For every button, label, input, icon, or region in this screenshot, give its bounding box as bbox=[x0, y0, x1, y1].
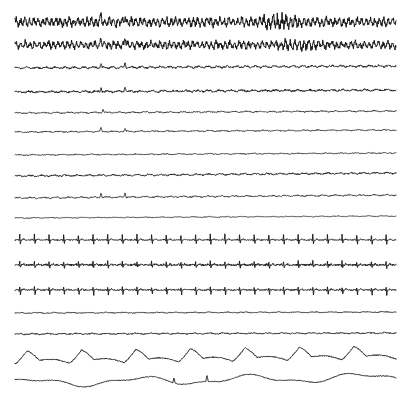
trace-spo2 bbox=[15, 311, 396, 313]
polysomnography-chart bbox=[0, 0, 410, 397]
trace-eeg-3 bbox=[15, 127, 396, 132]
trace-respiration-airflow bbox=[15, 346, 396, 364]
trace-eeg-6 bbox=[15, 193, 396, 199]
trace-eeg-4 bbox=[15, 152, 396, 155]
trace-respiration-effort bbox=[15, 373, 396, 387]
trace-eeg-1 bbox=[15, 12, 396, 30]
trace-ecg-2 bbox=[15, 260, 396, 268]
trace-eog-left bbox=[15, 63, 396, 69]
trace-eog-right bbox=[15, 87, 396, 93]
trace-ecg-1 bbox=[15, 234, 396, 245]
trace-ecg-3 bbox=[15, 286, 396, 295]
trace-layer bbox=[15, 12, 396, 387]
traces-canvas bbox=[0, 0, 410, 397]
trace-emg-chin bbox=[15, 109, 396, 113]
trace-eeg-7 bbox=[15, 216, 396, 219]
trace-snore bbox=[15, 332, 396, 335]
trace-eeg-2 bbox=[15, 38, 396, 51]
trace-eeg-5 bbox=[15, 172, 396, 177]
